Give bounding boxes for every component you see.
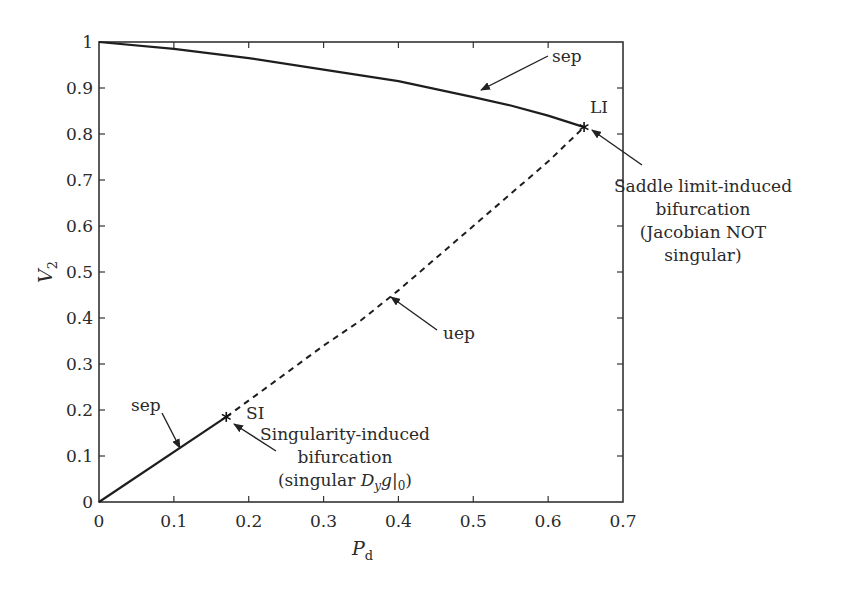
sing-0: 0 <box>398 479 406 493</box>
y-tick-label: 0.2 <box>66 400 93 420</box>
label-li: LI <box>590 97 608 117</box>
label-sep-lower: sep <box>131 395 161 415</box>
y-tick-label: 0 <box>82 492 93 512</box>
label-uep: uep <box>443 323 475 343</box>
saddle-line-1: Saddle limit-induced <box>614 176 792 196</box>
x-axis-label-main: P <box>351 537 366 559</box>
saddle-line-3: (Jacobian NOT <box>640 222 767 242</box>
star-marker-icon <box>222 412 231 422</box>
y-axis-label: V2 <box>34 261 60 283</box>
label-sep-upper: sep <box>552 46 582 66</box>
arrow-sep-upper <box>481 56 548 90</box>
y-tick-label: 0.1 <box>66 446 93 466</box>
sing-close: ) <box>405 470 412 490</box>
y-tick-label: 0.4 <box>66 308 93 328</box>
x-axis-label-sub: d <box>365 548 373 563</box>
y-tick-label: 1 <box>82 32 93 52</box>
y-tick-label: 0.9 <box>66 78 93 98</box>
x-tick-label: 0.4 <box>385 511 412 531</box>
arrow-sep-lower <box>162 413 180 448</box>
annotation-singularity: Singularity-induced bifurcation (singula… <box>260 424 430 493</box>
bifurcation-chart: 00.10.20.30.40.50.60.7 00.10.20.30.40.50… <box>0 0 850 589</box>
saddle-line-4: singular) <box>664 245 741 265</box>
y-tick-label: 0.5 <box>66 262 93 282</box>
x-axis-label: Pd <box>351 537 373 563</box>
singularity-line-3: (singular Dyg|0) <box>278 470 412 493</box>
annotation-arrows <box>162 56 642 451</box>
x-tick-label: 0.1 <box>160 511 187 531</box>
sing-g: g <box>381 470 392 490</box>
sing-open: (singular <box>278 470 361 490</box>
y-tick-label: 0.6 <box>66 216 93 236</box>
arrow-saddle <box>592 130 642 165</box>
saddle-line-2: bifurcation <box>656 199 751 219</box>
x-tick-label: 0 <box>94 511 105 531</box>
markers-group <box>222 122 588 422</box>
x-tick-label: 0.3 <box>310 511 337 531</box>
x-tick-label: 0.7 <box>609 511 636 531</box>
y-axis-label-sub: 2 <box>45 261 60 269</box>
y-tick-label: 0.8 <box>66 124 93 144</box>
series-line <box>226 127 584 417</box>
y-tick-label: 0.3 <box>66 354 93 374</box>
x-tick-label: 0.5 <box>460 511 487 531</box>
sing-D: D <box>360 470 375 490</box>
label-si: SI <box>246 403 264 423</box>
x-tick-label: 0.6 <box>535 511 562 531</box>
series-line <box>99 42 584 127</box>
singularity-line-2: bifurcation <box>298 447 393 467</box>
series-line <box>99 417 226 502</box>
x-tick-label: 0.2 <box>235 511 262 531</box>
y-tick-label: 0.7 <box>66 170 93 190</box>
arrow-uep <box>391 297 437 330</box>
singularity-line-1: Singularity-induced <box>260 424 430 444</box>
annotation-saddle: Saddle limit-induced bifurcation (Jacobi… <box>614 176 792 265</box>
